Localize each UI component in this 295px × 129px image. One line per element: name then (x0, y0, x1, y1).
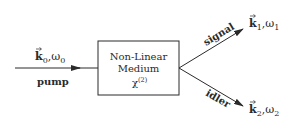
signal-wavevector-label: k1,ω1 (249, 15, 279, 33)
svg-text:k1,ω1: k1,ω1 (249, 17, 279, 32)
medium-line1: Non-Linear (110, 51, 168, 62)
svg-text:k2,ω2: k2,ω2 (249, 103, 279, 118)
svg-text:k0,ω0: k0,ω0 (35, 50, 65, 65)
idler-label: idler (204, 87, 233, 110)
pump-wavevector-label: k0,ω0 (35, 48, 65, 66)
nonlinear-medium-box: Non-Linear Medium χ(2) (98, 41, 179, 95)
pump-label: pump (37, 76, 69, 87)
pump-omega: ω (51, 50, 60, 63)
parametric-downconversion-diagram: k0,ω0 pump Non-Linear Medium χ(2) signal… (0, 0, 295, 129)
idler-wavevector-label: k2,ω2 (249, 101, 279, 119)
medium-line2: Medium (118, 63, 160, 74)
